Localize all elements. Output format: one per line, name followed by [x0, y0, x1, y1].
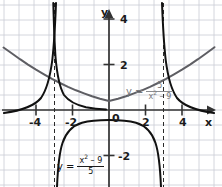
- x-tick-label-pos4: 4: [179, 117, 187, 128]
- equation-lhs-hyperbola: y =: [126, 87, 143, 97]
- x-tick-label-neg4: -4: [29, 117, 41, 128]
- fraction-denominator-parabola: 5: [86, 167, 95, 176]
- curve-hyperbola-left: [4, 3, 56, 113]
- equation-lhs-parabola: y =: [57, 162, 74, 172]
- numerator-tail: – 9: [91, 156, 103, 165]
- y-tick-label-pos2: 2: [120, 60, 128, 71]
- denominator-tail: – 9: [160, 92, 172, 101]
- denominator-exponent: 2: [153, 89, 157, 96]
- fraction-numerator-parabola: x2 – 9: [77, 157, 104, 166]
- fraction-hyperbola: 5 x2 – 9: [146, 82, 173, 101]
- x-axis-label: x: [205, 117, 212, 128]
- numerator-exponent: 2: [84, 153, 88, 160]
- y-tick-label-pos4: 4: [120, 14, 128, 25]
- fraction-parabola: x2 – 9 5: [77, 157, 104, 176]
- x-tick-label-neg2: -2: [65, 117, 77, 128]
- origin-label: 0: [112, 113, 120, 124]
- fraction-denominator-hyperbola: x2 – 9: [146, 92, 173, 101]
- graph-figure: -4 -2 2 4 0 4 2 -2 y x y = 5 x2 – 9 y = …: [0, 0, 222, 187]
- y-axis-label: y: [101, 7, 108, 18]
- equation-label-hyperbola: y = 5 x2 – 9: [126, 82, 173, 101]
- y-tick-label-neg2: -2: [118, 151, 130, 162]
- curve-hyperbola: [53, 3, 106, 110]
- x-tick-label-pos2: 2: [142, 117, 150, 128]
- equation-label-parabola: y = x2 – 9 5: [57, 157, 104, 176]
- graph-canvas: [0, 0, 222, 187]
- grid: [0, 0, 222, 187]
